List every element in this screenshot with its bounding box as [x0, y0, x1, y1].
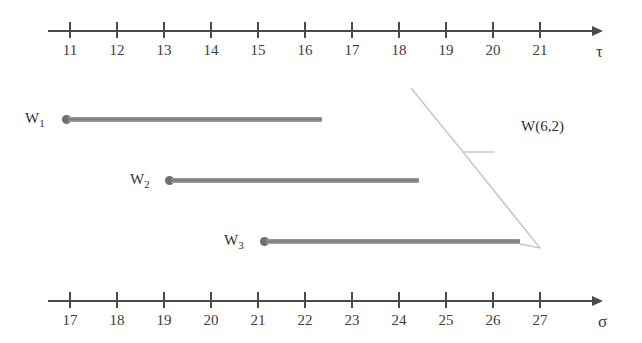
bottom-axis-tick: [351, 292, 353, 308]
diagram-canvas: 11 12 13 14 15 16 17 18 19 20 21 τ W1 W2…: [0, 0, 642, 343]
bottom-axis-tick: [539, 292, 541, 308]
bottom-axis-tick: [398, 292, 400, 308]
top-axis-tick: [445, 22, 447, 38]
window-label-text: W: [224, 232, 238, 248]
top-axis-tick: [116, 22, 118, 38]
top-axis-tick: [210, 22, 212, 38]
bottom-axis-tick: [304, 292, 306, 308]
bottom-axis-tick: [257, 292, 259, 308]
top-axis-tick: [539, 22, 541, 38]
window-label-sub: 3: [238, 239, 244, 251]
bottom-axis-tick-label: 24: [384, 312, 414, 329]
top-axis-tick-label: 12: [102, 42, 132, 59]
top-axis-tick-label: 15: [243, 42, 273, 59]
bottom-axis-name: σ: [598, 312, 607, 332]
top-axis-tick: [257, 22, 259, 38]
bottom-axis-tick: [163, 292, 165, 308]
bottom-axis-tick-label: 27: [525, 312, 555, 329]
bottom-axis-tick-label: 18: [102, 312, 132, 329]
top-axis-tick-label: 20: [478, 42, 508, 59]
window-label-text: W: [25, 110, 39, 126]
top-axis-tick-label: 13: [149, 42, 179, 59]
top-axis-tick: [351, 22, 353, 38]
bottom-axis-tick: [445, 292, 447, 308]
bottom-axis-tick: [492, 292, 494, 308]
top-axis-tick-label: 21: [525, 42, 555, 59]
bottom-axis-tick-label: 19: [149, 312, 179, 329]
callout-label: W(6,2): [521, 118, 564, 135]
top-axis-line: [48, 30, 594, 32]
top-axis-tick: [398, 22, 400, 38]
bottom-axis-line: [48, 300, 594, 302]
top-axis-tick: [163, 22, 165, 38]
bottom-axis-tick-label: 26: [478, 312, 508, 329]
top-axis-tick-label: 18: [384, 42, 414, 59]
top-axis-tick-label: 11: [55, 42, 85, 59]
top-axis-tick-label: 16: [290, 42, 320, 59]
top-axis-tick-label: 17: [337, 42, 367, 59]
top-axis-tick: [492, 22, 494, 38]
bottom-axis-arrow-icon: [592, 296, 603, 306]
bottom-axis-tick-label: 22: [290, 312, 320, 329]
window-label-w2: W2: [130, 171, 150, 190]
bottom-axis-tick: [116, 292, 118, 308]
window-bar-w3: [266, 239, 520, 244]
top-axis-name: τ: [596, 42, 603, 62]
bottom-axis-tick-label: 17: [55, 312, 85, 329]
top-axis-tick: [304, 22, 306, 38]
bottom-axis-tick-label: 20: [196, 312, 226, 329]
window-label-sub: 2: [144, 178, 150, 190]
window-bar-w1: [68, 117, 322, 122]
top-axis-tick: [69, 22, 71, 38]
bottom-axis-tick-label: 23: [337, 312, 367, 329]
window-label-sub: 1: [39, 117, 45, 129]
bottom-axis-tick: [210, 292, 212, 308]
top-axis-arrow-icon: [592, 26, 603, 36]
window-label-text: W: [130, 171, 144, 187]
bottom-axis-tick-label: 25: [431, 312, 461, 329]
window-bar-w2: [171, 178, 419, 183]
window-label-w3: W3: [224, 232, 244, 251]
top-axis-tick-label: 19: [431, 42, 461, 59]
bottom-axis-tick: [69, 292, 71, 308]
window-label-w1: W1: [25, 110, 45, 129]
top-axis-tick-label: 14: [196, 42, 226, 59]
bottom-axis-tick-label: 21: [243, 312, 273, 329]
